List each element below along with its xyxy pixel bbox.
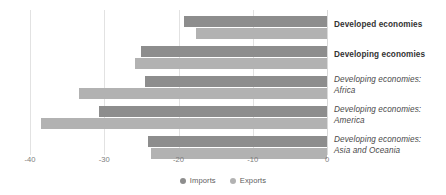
legend-swatch-icon — [230, 178, 236, 184]
bar-exports[interactable] — [135, 58, 327, 69]
category-label: Developing economies — [334, 50, 446, 61]
bar-imports[interactable] — [99, 106, 327, 117]
bar-imports[interactable] — [145, 76, 327, 87]
legend-swatch-icon — [180, 178, 186, 184]
bar-exports[interactable] — [41, 118, 327, 129]
x-axis-tick-label: -20 — [173, 155, 184, 164]
legend-label: Exports — [240, 176, 266, 185]
x-axis-tick-label: -40 — [25, 155, 36, 164]
x-axis: -40-30-20-100 — [0, 155, 446, 169]
plot-area: Developed economiesDeveloping economiesD… — [0, 0, 446, 158]
category-label-line1: Developed economies — [334, 20, 422, 29]
x-axis-tick-label: -30 — [99, 155, 110, 164]
legend-item-imports[interactable]: Imports — [180, 176, 216, 185]
category-label: Developed economies — [334, 20, 446, 31]
category-label: Developing economies:Asia and Oceania — [334, 135, 446, 156]
bar-exports[interactable] — [79, 88, 327, 99]
x-axis-tick-label: -10 — [247, 155, 258, 164]
bar-imports[interactable] — [184, 16, 327, 27]
category-label-line2: Africa — [334, 86, 446, 97]
legend-item-exports[interactable]: Exports — [230, 176, 266, 185]
category-label: Developing economies:America — [334, 105, 446, 126]
bar-imports[interactable] — [148, 136, 327, 147]
category-label-line2: America — [334, 116, 446, 127]
category-label: Developing economies:Africa — [334, 75, 446, 96]
x-axis-tick-label: 0 — [325, 155, 329, 164]
legend-label: Imports — [190, 176, 216, 185]
category-label-line1: Developing economies — [334, 50, 425, 59]
bar-imports[interactable] — [141, 46, 327, 57]
category-label-line1: Developing economies: — [334, 75, 421, 84]
bar-exports[interactable] — [196, 28, 327, 39]
category-label-line1: Developing economies: — [334, 135, 421, 144]
category-label-line1: Developing economies: — [334, 105, 421, 114]
horizontal-bar-chart: Developed economiesDeveloping economiesD… — [0, 0, 446, 195]
chart-legend: ImportsExports — [0, 176, 446, 185]
